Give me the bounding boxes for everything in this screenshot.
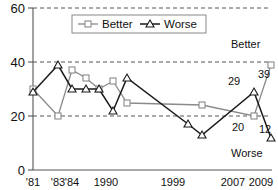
xtick-label-84: '84	[65, 176, 79, 188]
xtick-label-2009: 2009	[249, 176, 273, 188]
annotation-worse-end: Worse	[231, 147, 263, 159]
annotation-value-29: 29	[228, 75, 240, 87]
annotation-better-end: Better	[231, 38, 261, 50]
annotation-value-39: 39	[258, 68, 270, 80]
ytick-label-40: 40	[11, 55, 25, 70]
legend-label-worse[interactable]: Worse	[164, 18, 197, 30]
xtick-label-1990: 1990	[94, 176, 118, 188]
xtick-label-81: '81	[26, 176, 40, 188]
chart-canvas: 60 40 20 0 '81 '83 '84 1990 1999 2007 20…	[0, 0, 278, 190]
line-chart: 60 40 20 0 '81 '83 '84 1990 1999 2007 20…	[0, 0, 278, 190]
ytick-label-60: 60	[11, 1, 25, 16]
ytick-label-0: 0	[18, 163, 25, 178]
legend-swatch-better-marker	[85, 21, 91, 27]
xtick-label-2007: 2007	[221, 176, 245, 188]
xtick-label-83: '83	[51, 176, 65, 188]
annotation-value-20: 20	[232, 121, 244, 133]
series-better	[30, 62, 274, 119]
legend-label-better[interactable]: Better	[102, 18, 133, 30]
xtick-label-1999: 1999	[161, 176, 185, 188]
ytick-label-20: 20	[11, 109, 25, 124]
annotation-value-12: 12	[259, 123, 271, 135]
chart-legend[interactable]: Better Worse	[72, 15, 206, 33]
series-better-markers	[30, 62, 274, 119]
